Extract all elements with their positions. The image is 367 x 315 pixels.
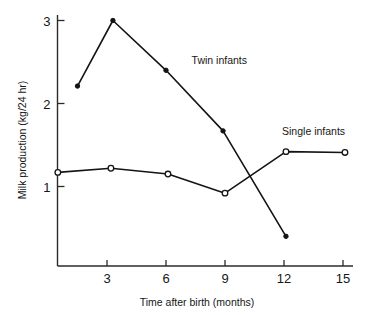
- data-point-twin-infants-1: [111, 18, 115, 22]
- series-annotations: Twin infantsSingle infants: [192, 54, 346, 137]
- data-point-twin-infants-4: [284, 234, 288, 238]
- chart-canvas: 1233691215 Twin infantsSingle infants Ti…: [0, 0, 367, 315]
- series-line-twin-infants: [78, 21, 286, 237]
- y-axis-title: Milk production (kg/24 hr): [16, 81, 28, 199]
- series-label-single-infants: Single infants: [282, 125, 345, 137]
- series-line-single-infants: [58, 152, 345, 194]
- x-tick-label-9: 9: [221, 271, 228, 286]
- series-label-twin-infants: Twin infants: [192, 54, 247, 66]
- data-point-single-infants-5: [342, 150, 348, 156]
- x-tick-label-3: 3: [103, 271, 110, 286]
- y-tick-label-1: 1: [43, 180, 50, 195]
- axes: [58, 15, 354, 266]
- data-point-single-infants-3: [222, 190, 228, 196]
- x-tick-label-12: 12: [277, 271, 291, 286]
- data-point-twin-infants-0: [75, 84, 79, 88]
- data-point-single-infants-4: [283, 149, 289, 155]
- data-point-twin-infants-3: [221, 129, 225, 133]
- x-tick-label-15: 15: [336, 271, 350, 286]
- data-point-twin-infants-2: [164, 68, 168, 72]
- x-axis-title: Time after birth (months): [140, 296, 255, 308]
- x-tick-label-6: 6: [162, 271, 169, 286]
- data-point-single-infants-0: [55, 170, 61, 176]
- milk-production-chart: 1233691215 Twin infantsSingle infants Ti…: [0, 0, 367, 315]
- data-point-single-infants-1: [108, 165, 114, 171]
- data-point-single-infants-2: [165, 171, 171, 177]
- y-tick-label-3: 3: [43, 14, 50, 29]
- y-tick-label-2: 2: [43, 97, 50, 112]
